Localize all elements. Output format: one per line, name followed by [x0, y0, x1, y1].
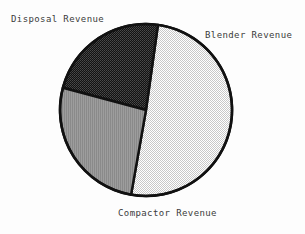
slice-label-compactor-revenue: Compactor Revenue: [118, 208, 217, 219]
slice-label-disposal-revenue: Disposal Revenue: [11, 14, 104, 25]
slice-label-blender-revenue: Blender Revenue: [205, 30, 292, 41]
pie-chart: Disposal Revenue Blender Revenue Compact…: [0, 0, 305, 234]
